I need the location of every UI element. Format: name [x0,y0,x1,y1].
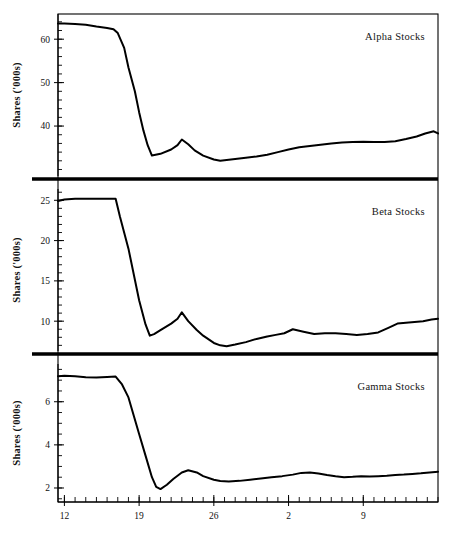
x-tick-label: 19 [134,511,144,521]
panel-2-y-axis-title: Shares ('000s) [11,237,23,303]
panel-3-y-axis-title: Shares ('000s) [11,400,23,466]
panel-1-label: Alpha Stocks [365,31,425,42]
chart-figure: 405060Shares ('000s)Alpha Stocks10152025… [0,0,453,542]
panel-1-y-axis-title: Shares ('000s) [11,62,23,128]
panel-1-y-tick-label: 50 [41,78,51,88]
panel-2-data-line [58,199,438,346]
x-tick-label: 2 [286,511,291,521]
stock-shares-multipanel-chart: 405060Shares ('000s)Alpha Stocks10152025… [0,0,453,542]
panel-3-y-tick-label: 2 [45,483,50,493]
panel-3-y-tick-label: 6 [45,397,50,407]
panel-2-y-tick-label: 10 [41,317,51,327]
panel-1-data-line [58,24,438,161]
panel-3-data-line [58,376,438,489]
x-tick-label: 26 [209,511,219,521]
plot-frame [58,14,438,502]
panel-3-y-tick-label: 4 [45,440,50,450]
panel-1-y-tick-label: 60 [41,35,51,45]
panel-2-y-tick-label: 20 [41,236,51,246]
x-tick-label: 12 [60,511,70,521]
panel-2-y-tick-label: 25 [41,196,51,206]
panel-1-y-tick-label: 40 [41,121,51,131]
panel-3-label: Gamma Stocks [358,381,425,392]
x-tick-label: 9 [361,511,366,521]
panel-2-y-tick-label: 15 [41,276,51,286]
panel-2-label: Beta Stocks [372,206,425,217]
